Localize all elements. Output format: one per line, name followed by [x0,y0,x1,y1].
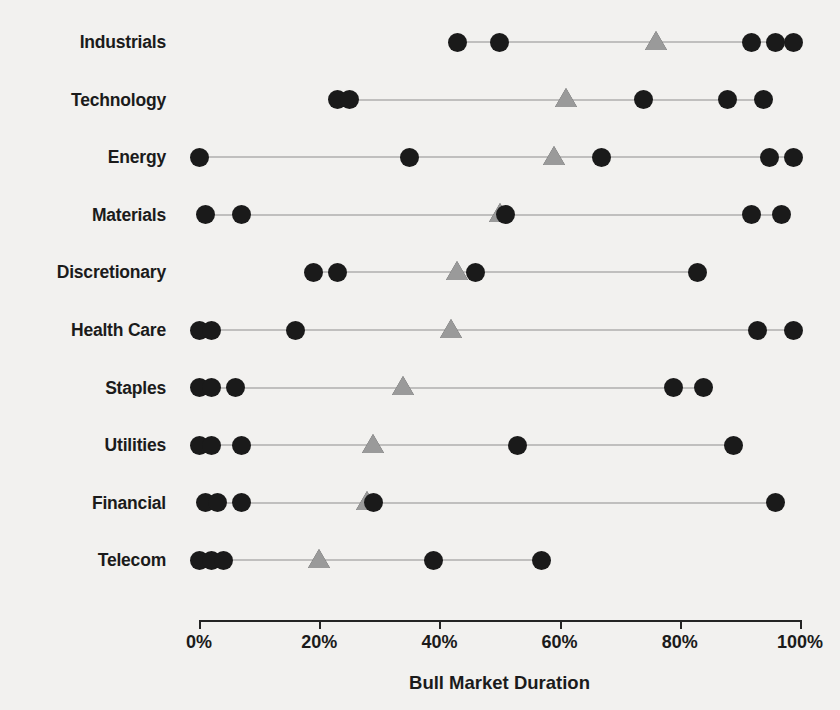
data-point-marker [688,263,707,282]
row-connector-line [199,445,734,446]
plot-area [0,0,840,710]
data-point-marker [202,436,221,455]
data-point-marker [340,90,359,109]
median-marker [362,434,384,453]
x-axis-tick-label: 80% [662,632,698,653]
data-point-marker [424,551,443,570]
data-point-marker [742,33,761,52]
median-marker [440,319,462,338]
data-point-marker [202,321,221,340]
data-point-marker [364,493,383,512]
row-connector-line [199,560,542,561]
x-axis-tick-label: 40% [421,632,457,653]
data-point-marker [286,321,305,340]
x-axis-tick-label: 60% [542,632,578,653]
data-point-marker [328,263,347,282]
row-connector-line [337,99,764,100]
data-point-marker [784,33,803,52]
data-point-marker [664,378,683,397]
x-axis-tick [560,620,562,629]
data-point-marker [508,436,527,455]
data-point-marker [496,205,515,224]
data-point-marker [304,263,323,282]
median-marker [645,31,667,50]
data-point-marker [448,33,467,52]
x-axis-tick [680,620,682,629]
x-axis-tick-label: 20% [301,632,337,653]
data-point-marker [214,551,233,570]
data-point-marker [718,90,737,109]
data-point-marker [196,205,215,224]
data-point-marker [490,33,509,52]
x-axis-tick-label: 0% [186,632,212,653]
x-axis-tick [319,620,321,629]
median-marker [543,146,565,165]
x-axis-title: Bull Market Duration [409,672,590,694]
data-point-marker [232,493,251,512]
data-point-marker [766,33,785,52]
data-point-marker [208,493,227,512]
data-point-marker [226,378,245,397]
row-connector-line [199,387,704,388]
data-point-marker [532,551,551,570]
data-point-marker [772,205,791,224]
data-point-marker [724,436,743,455]
data-point-marker [592,148,611,167]
row-connector-line [199,157,794,158]
data-point-marker [742,205,761,224]
data-point-marker [232,436,251,455]
x-axis-line [199,620,802,622]
data-point-marker [748,321,767,340]
median-marker [555,88,577,107]
data-point-marker [784,321,803,340]
data-point-marker [190,148,209,167]
data-point-marker [466,263,485,282]
data-point-marker [766,493,785,512]
x-axis-tick-label: 100% [777,632,823,653]
median-marker [392,376,414,395]
median-marker [308,549,330,568]
data-point-marker [760,148,779,167]
data-point-marker [400,148,419,167]
data-point-marker [634,90,653,109]
data-point-marker [232,205,251,224]
x-axis-tick [199,620,201,629]
x-axis-tick [800,620,802,629]
row-connector-line [205,502,776,503]
data-point-marker [202,378,221,397]
data-point-marker [754,90,773,109]
row-connector-line [313,272,698,273]
x-axis-tick [439,620,441,629]
data-point-marker [784,148,803,167]
data-point-marker [694,378,713,397]
chart-root: IndustrialsTechnologyEnergyMaterialsDisc… [0,0,840,710]
